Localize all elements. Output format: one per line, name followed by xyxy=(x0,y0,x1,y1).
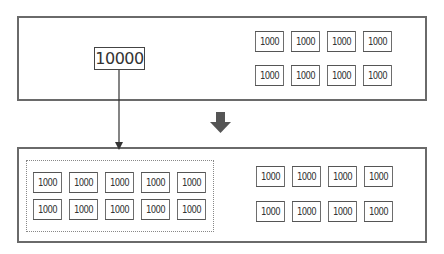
down-arrow-icon xyxy=(210,112,231,133)
connectors xyxy=(0,0,444,254)
split-connector-arrow xyxy=(115,70,123,150)
